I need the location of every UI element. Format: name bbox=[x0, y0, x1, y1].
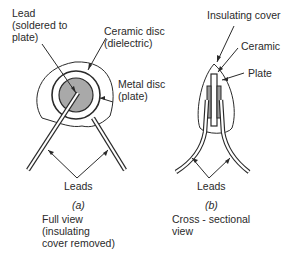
label-lead: Lead bbox=[12, 7, 35, 19]
label-ceramic-disc: Ceramic disc bbox=[104, 25, 165, 37]
caption-a-line2: (insulating bbox=[42, 225, 90, 237]
label-ceramic-disc-line2: (dielectric) bbox=[104, 37, 152, 49]
label-lead-line2: (soldered to bbox=[12, 19, 67, 31]
label-leads-b: Leads bbox=[197, 180, 226, 192]
label-ceramic: Ceramic bbox=[241, 40, 280, 52]
caption-a-line3: cover removed) bbox=[42, 237, 115, 249]
cross-section-drawing bbox=[176, 26, 249, 178]
caption-letter-a: (a) bbox=[72, 199, 85, 211]
full-view-drawing bbox=[28, 38, 125, 178]
label-metal-disc: Metal disc bbox=[118, 78, 165, 90]
caption-b-line1: Cross - sectional bbox=[172, 213, 250, 225]
label-leads-a: Leads bbox=[64, 180, 93, 192]
label-plate: Plate bbox=[248, 67, 272, 79]
label-insulating-cover: Insulating cover bbox=[207, 9, 281, 21]
caption-b-line2: view bbox=[172, 225, 193, 237]
caption-letter-b: (b) bbox=[205, 199, 218, 211]
ceramic-layer bbox=[211, 74, 217, 126]
label-lead-line3: plate) bbox=[12, 31, 38, 43]
caption-a-line1: Full view bbox=[42, 213, 83, 225]
label-metal-disc-line2: (plate) bbox=[118, 90, 148, 102]
